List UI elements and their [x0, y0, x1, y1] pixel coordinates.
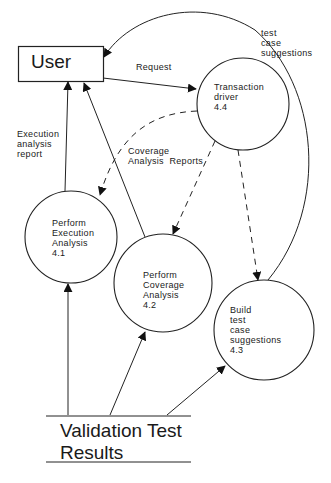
flow-store-to-4-2 — [110, 332, 145, 415]
coverage-analysis-reports-label: Coverage Analysis Reports — [128, 146, 203, 166]
user-entity-label: User — [31, 51, 71, 73]
flow-4-4-to-4-3 — [238, 150, 258, 280]
data-store-label: Validation Test Results — [60, 420, 182, 464]
process-4-1-label: Perform Execution Analysis 4.1 — [52, 218, 94, 258]
process-4-4-label: Transaction driver 4.4 — [214, 82, 264, 112]
test-case-suggestions-label: test case suggestions — [261, 28, 312, 58]
process-4-3-label: Build test case suggestions 4.3 — [230, 305, 281, 355]
flow-request — [103, 78, 196, 89]
flow-store-to-4-3 — [167, 366, 225, 415]
flow-execution-analysis-report — [65, 82, 68, 191]
execution-analysis-report-label: Execution analysis report — [17, 129, 59, 159]
process-4-2-label: Perform Coverage Analysis 4.2 — [143, 270, 184, 310]
request-label: Request — [136, 62, 172, 72]
